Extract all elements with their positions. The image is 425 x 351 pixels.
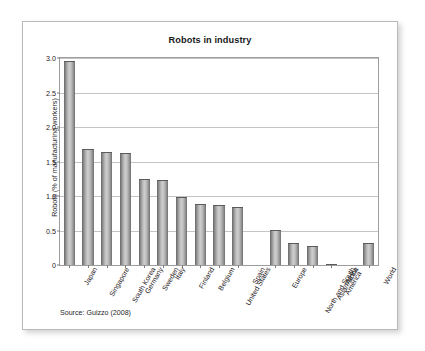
x-tick-label: Japan: [83, 266, 100, 287]
y-tick-label: 1.0: [46, 192, 56, 201]
y-tick-label: 3.0: [46, 54, 56, 63]
bar: [213, 205, 224, 265]
bar: [120, 153, 131, 265]
x-tick-label: Europe: [291, 266, 310, 290]
bar: [64, 61, 75, 265]
bar: [101, 152, 112, 265]
bar: [157, 180, 168, 265]
x-tick-label: World: [382, 266, 398, 286]
x-axis-labels: JapanSingaporeSouth KoreaGermanySwedenIt…: [59, 266, 377, 328]
y-tick-label: 0.5: [46, 226, 56, 235]
y-tick-label: 2.5: [46, 88, 56, 97]
x-tick-label: Finland: [197, 266, 216, 290]
plot-area: 00.51.01.52.02.53.0: [59, 57, 379, 266]
chart-title: Robots in industry: [23, 35, 397, 45]
bar: [232, 207, 243, 265]
bar: [82, 149, 93, 265]
figure-frame: Robots in industry Robots (% of manufact…: [22, 21, 398, 330]
y-tick-label: 1.5: [46, 157, 56, 166]
bar: [363, 243, 374, 265]
bar: [139, 179, 150, 265]
bar: [288, 243, 299, 265]
bar: [307, 246, 318, 265]
x-tick-label: Belgium: [217, 266, 237, 292]
bar-series: [60, 58, 378, 265]
x-tick-label: Singapore: [108, 266, 131, 298]
y-tick-label: 0: [52, 261, 56, 270]
bar: [195, 204, 206, 265]
bar: [270, 230, 281, 265]
bar: [176, 197, 187, 265]
source-note: Source: Guizzo (2008): [60, 309, 131, 317]
y-tick-label: 2.0: [46, 123, 56, 132]
